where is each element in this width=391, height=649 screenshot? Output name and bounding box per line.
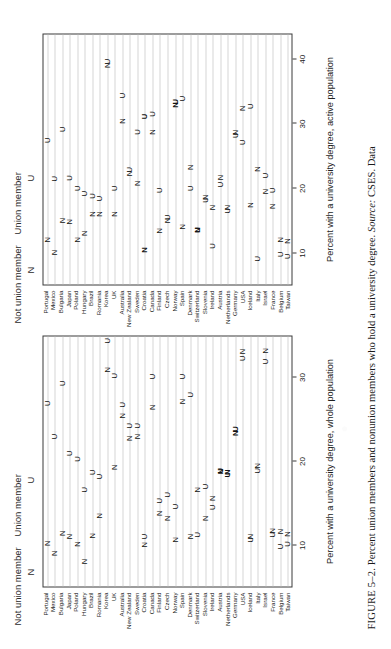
data-point-u: U (141, 533, 149, 538)
gridline (167, 336, 168, 586)
gridline (242, 34, 243, 284)
data-point-u: U (50, 175, 58, 180)
category-label: Czech (164, 592, 170, 610)
x-tick-label: 20 (297, 184, 306, 193)
category-label: USA (240, 290, 246, 303)
data-point-u: U (201, 483, 209, 488)
data-point-u: U (223, 472, 231, 477)
category-label: Croatia (141, 290, 147, 310)
legend-not-union-symbol: N (24, 568, 35, 575)
legend-not-union-symbol: N (24, 266, 35, 273)
gridline (175, 34, 176, 284)
gridline (227, 336, 228, 586)
gridline (257, 336, 258, 586)
data-point-u: U (283, 541, 291, 546)
data-point-u: U (163, 214, 171, 219)
x-tick (292, 376, 296, 377)
legend-union-symbol: U (24, 476, 35, 483)
x-tick (292, 544, 296, 545)
figure-number: FIGURE 5–2. (365, 567, 376, 629)
gridline (99, 336, 100, 586)
gridline (144, 336, 145, 586)
category-label: Slovenia (202, 592, 208, 616)
legend-union-symbol: U (24, 174, 35, 181)
data-point-n: N (111, 464, 119, 469)
data-point-u: U (73, 185, 81, 190)
gridline (250, 34, 251, 284)
x-tick-label: 30 (297, 119, 306, 128)
category-label: Japan (65, 592, 71, 609)
gridline (197, 336, 198, 586)
category-label: Netherlands (224, 592, 230, 625)
gridlines-right (43, 34, 291, 284)
gridline (54, 34, 55, 284)
data-point-u: U (148, 111, 156, 116)
data-point-u: U (171, 503, 179, 508)
gridline (62, 336, 63, 586)
gridline (280, 34, 281, 284)
gridline (182, 34, 183, 284)
data-point-u: U (50, 433, 58, 438)
data-point-n: N (81, 558, 89, 563)
gridline (84, 336, 85, 586)
data-point-u: U (231, 426, 239, 431)
category-label: Italy (255, 592, 261, 603)
data-point-n: N (118, 118, 126, 123)
data-point-n: N (103, 367, 111, 372)
gridline (220, 336, 221, 586)
category-label: Germany (232, 290, 238, 315)
gridline (159, 336, 160, 586)
category-label: Finland (156, 290, 162, 310)
category-label: USA (240, 592, 246, 605)
gridline (242, 336, 243, 586)
data-point-u: U (238, 139, 246, 144)
data-point-u: U (103, 337, 111, 342)
data-point-u: U (58, 126, 66, 131)
data-point-n: N (283, 531, 291, 536)
data-point-u: U (208, 504, 216, 509)
data-point-n: N (171, 537, 179, 542)
category-label: Norway (171, 592, 177, 613)
legend-not-union-label: Not union member (11, 547, 22, 625)
data-point-n: N (43, 540, 51, 545)
category-label: Belgium (278, 592, 284, 614)
category-label: Iceland (247, 290, 253, 310)
gridline (92, 34, 93, 284)
data-point-u: U (148, 373, 156, 378)
category-label: Sweden (134, 290, 140, 312)
category-label: Denmark (187, 290, 193, 315)
data-point-n: N (73, 236, 81, 241)
data-point-n: N (261, 347, 269, 352)
gridline (62, 34, 63, 284)
category-label: Belgium (278, 290, 284, 312)
data-point-u: U (96, 473, 104, 478)
figure-5-2: Not union member N Union member U Portug… (0, 0, 391, 649)
gridline (159, 34, 160, 284)
category-label: Czech (164, 290, 170, 308)
data-point-u: U (81, 487, 89, 492)
category-label: Spain (179, 592, 185, 608)
data-point-u: U (201, 197, 209, 202)
gridline (235, 34, 236, 284)
category-label: Austria (217, 290, 223, 309)
gridline (152, 34, 153, 284)
category-label: Mexico (50, 592, 56, 612)
category-label: Poland (73, 592, 79, 611)
figure-source-label: Source: (365, 199, 376, 232)
data-point-u: U (268, 532, 276, 537)
x-tick-label: 40 (297, 54, 306, 63)
x-axis-label-right: Percent with a university degree, active… (324, 33, 334, 285)
data-point-u: U (186, 392, 194, 397)
category-label: Romania (96, 592, 102, 617)
category-label: Australia (118, 290, 124, 314)
category-label: Canada (149, 592, 155, 614)
gridline (47, 336, 48, 586)
data-point-n: N (186, 164, 194, 169)
data-point-n: N (178, 224, 186, 229)
category-label: France (270, 290, 276, 309)
gridline (257, 34, 258, 284)
legend-left: Not union member N Union member U (8, 331, 42, 631)
data-point-u: U (96, 195, 104, 200)
category-label: Spain (179, 290, 185, 306)
data-point-n: N (141, 247, 149, 252)
